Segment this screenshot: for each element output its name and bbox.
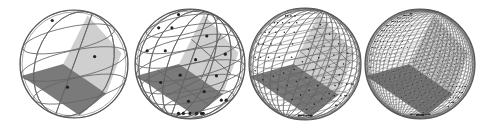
sphere-nside-1 (5, 0, 143, 126)
sphere-nside-8 (350, 0, 490, 126)
sphere-nside-4 (233, 0, 377, 126)
sphere-nside-2 (120, 0, 261, 126)
sphere-diagram-canvas (0, 0, 490, 126)
healpix-figure (0, 0, 490, 126)
